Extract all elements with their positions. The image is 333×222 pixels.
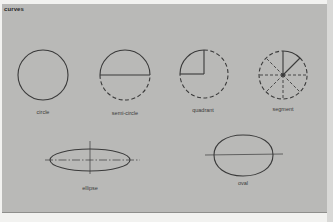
segment-shape bbox=[259, 51, 307, 99]
ellipse-shape bbox=[45, 141, 140, 174]
quadrant-shape bbox=[180, 50, 228, 98]
semi-circle-shape bbox=[100, 50, 150, 100]
oval-shape bbox=[205, 135, 283, 176]
oval-label: oval bbox=[238, 180, 248, 186]
circle-label: circle bbox=[37, 109, 50, 115]
curves-diagram: circle semi-circle quadrant segment elli… bbox=[0, 0, 333, 222]
quadrant-label: quadrant bbox=[192, 107, 214, 113]
circle-shape bbox=[18, 50, 68, 100]
segment-label: segment bbox=[272, 106, 294, 112]
semi-circle-label: semi-circle bbox=[112, 110, 138, 116]
ellipse-label: ellipse bbox=[82, 185, 98, 191]
